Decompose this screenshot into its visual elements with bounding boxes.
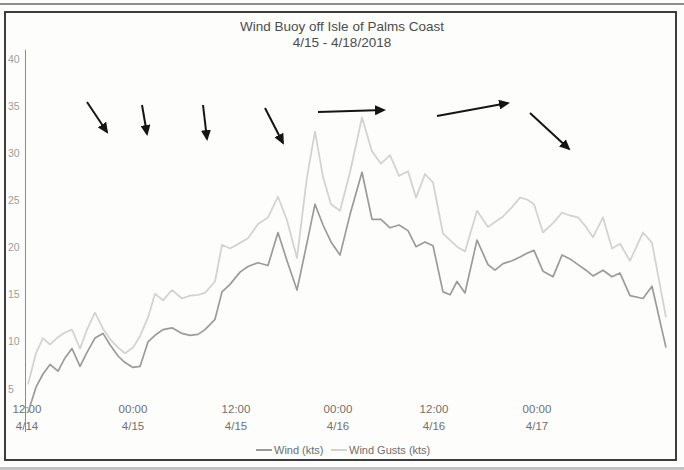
chart-subtitle: 4/15 - 4/18/2018 bbox=[293, 35, 391, 50]
wind-direction-arrow-icon bbox=[203, 105, 207, 139]
y-tick-label: 30 bbox=[8, 147, 20, 159]
wind-direction-arrow-icon bbox=[437, 103, 508, 116]
y-tick-label: 15 bbox=[8, 288, 20, 300]
x-tick-date-label: 4/14 bbox=[16, 420, 39, 432]
wind-series-line bbox=[28, 172, 666, 412]
wind-direction-arrow-icon bbox=[265, 108, 283, 143]
x-tick-date-label: 4/17 bbox=[526, 420, 548, 432]
wind-chart-figure: Wind Buoy off Isle of Palms Coast 4/15 -… bbox=[0, 0, 684, 470]
x-tick-date-label: 4/15 bbox=[122, 420, 144, 432]
wind-direction-arrow-icon bbox=[318, 110, 384, 112]
x-axis-tick-labels: 12:004/1400:004/1512:004/1500:004/1612:0… bbox=[13, 403, 552, 432]
x-tick-time-label: 00:00 bbox=[324, 403, 353, 415]
wind-chart-canvas: Wind Buoy off Isle of Palms Coast 4/15 -… bbox=[0, 0, 684, 470]
chart-legend: Wind (kts)Wind Gusts (kts) bbox=[256, 444, 430, 456]
x-tick-date-label: 4/16 bbox=[327, 420, 349, 432]
x-tick-date-label: 4/16 bbox=[423, 420, 445, 432]
legend-label: Wind (kts) bbox=[274, 444, 324, 456]
wind-direction-arrow-icon bbox=[142, 105, 147, 134]
y-tick-label: 40 bbox=[8, 53, 20, 65]
x-tick-time-label: 12:00 bbox=[420, 403, 449, 415]
x-tick-time-label: 12:00 bbox=[222, 403, 251, 415]
x-tick-time-label: 00:00 bbox=[523, 403, 552, 415]
y-tick-label: 25 bbox=[8, 194, 20, 206]
y-tick-label: 10 bbox=[8, 335, 20, 347]
y-tick-label: 5 bbox=[8, 383, 14, 395]
wind-direction-arrow-icon bbox=[530, 113, 569, 149]
x-tick-time-label: 00:00 bbox=[119, 403, 148, 415]
y-tick-label: 20 bbox=[8, 241, 20, 253]
legend-label: Wind Gusts (kts) bbox=[349, 444, 430, 456]
wind-direction-arrows bbox=[87, 102, 569, 149]
y-axis-tick-labels: 403530252015105 bbox=[8, 53, 20, 395]
x-tick-date-label: 4/15 bbox=[225, 420, 247, 432]
y-tick-label: 35 bbox=[8, 100, 20, 112]
wind-direction-arrow-icon bbox=[87, 102, 107, 132]
wind-gusts-series-line bbox=[28, 118, 666, 385]
chart-title: Wind Buoy off Isle of Palms Coast bbox=[240, 19, 444, 34]
x-tick-time-label: 12:00 bbox=[13, 403, 42, 415]
